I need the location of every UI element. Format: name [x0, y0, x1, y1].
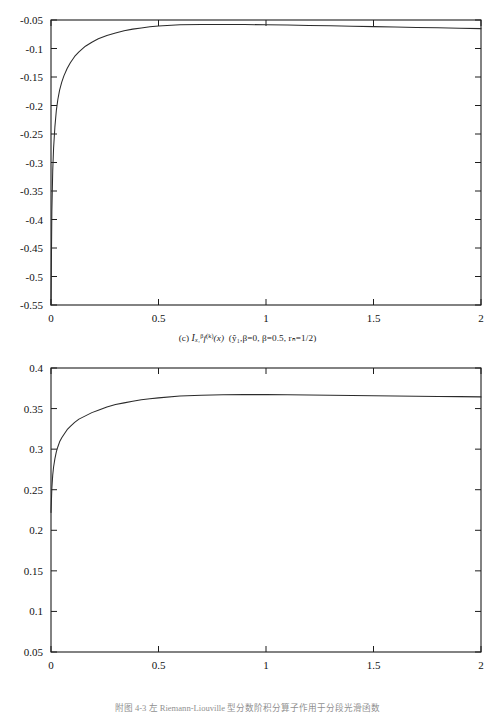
plot-c: -0.55-0.5-0.45-0.4-0.35-0.3-0.25-0.2-0.1… — [0, 0, 495, 330]
y-tick-label: 0.2 — [29, 524, 43, 536]
y-tick-label: -0.35 — [20, 185, 43, 197]
chart-c-svg: -0.55-0.5-0.45-0.4-0.35-0.3-0.25-0.2-0.1… — [0, 0, 495, 330]
panel-c: -0.55-0.5-0.45-0.4-0.35-0.3-0.25-0.2-0.1… — [0, 0, 495, 350]
x-tick-label: 1 — [263, 312, 269, 324]
caption-c: (c) Ix₁βf(k)(x) (ŷ₁,β=0, β=0.5, rₙ=1/2) — [0, 330, 495, 346]
x-tick-label: 2 — [478, 312, 484, 324]
panel-d: 0.050.10.150.20.250.30.350.400.511.52 (d… — [0, 352, 495, 697]
plot-frame — [51, 20, 481, 305]
x-tick-label: 2 — [478, 659, 484, 671]
y-tick-label: -0.15 — [20, 71, 43, 83]
page-footer-caption: 附图 4-3 左 Riemann-Liouville 型分数阶积分算子作用于分段… — [0, 703, 495, 714]
y-tick-label: 0.1 — [29, 605, 43, 617]
y-tick-label: -0.55 — [20, 299, 43, 311]
x-tick-label: 0 — [48, 312, 54, 324]
plot-frame — [51, 368, 481, 652]
x-tick-label: 0.5 — [152, 312, 166, 324]
caption-c-function-sup: (k) — [206, 332, 214, 339]
y-tick-label: -0.4 — [26, 214, 44, 226]
data-series-line — [51, 24, 481, 305]
chart-d-svg: 0.050.10.150.20.250.30.350.400.511.52 — [0, 352, 495, 678]
y-tick-label: -0.2 — [26, 100, 43, 112]
x-tick-label: 1.5 — [367, 312, 381, 324]
plot-d: 0.050.10.150.20.250.30.350.400.511.52 — [0, 352, 495, 678]
y-tick-label: 0.35 — [24, 403, 44, 415]
x-tick-label: 1 — [263, 659, 269, 671]
y-tick-label: -0.5 — [26, 271, 44, 283]
y-tick-label: 0.3 — [29, 443, 43, 455]
x-tick-label: 0.5 — [152, 659, 166, 671]
y-tick-label: -0.25 — [20, 128, 43, 140]
y-tick-label: -0.05 — [20, 14, 43, 26]
y-tick-label: 0.05 — [24, 646, 44, 658]
y-tick-label: 0.15 — [24, 565, 44, 577]
y-tick-label: -0.45 — [20, 242, 43, 254]
y-tick-label: 0.25 — [24, 484, 44, 496]
y-tick-label: -0.1 — [26, 43, 43, 55]
figure-page: -0.55-0.5-0.45-0.4-0.35-0.3-0.25-0.2-0.1… — [0, 0, 495, 714]
x-tick-label: 1.5 — [367, 659, 381, 671]
x-tick-label: 0 — [48, 659, 54, 671]
y-tick-label: -0.3 — [26, 157, 44, 169]
caption-c-label: (c) — [179, 333, 190, 343]
caption-c-argument: (x) — [214, 333, 225, 343]
caption-c-params: (ŷ₁,β=0, β=0.5, rₙ=1/2) — [229, 333, 316, 343]
data-series-line — [51, 395, 481, 513]
y-tick-label: 0.4 — [29, 362, 43, 374]
